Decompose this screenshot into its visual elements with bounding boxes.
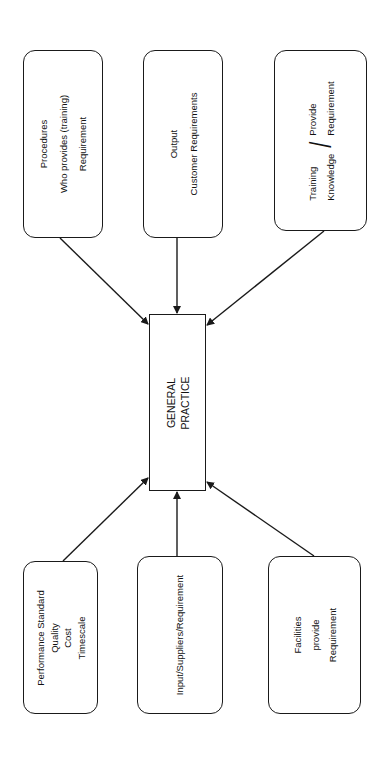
box-line: Facilities bbox=[292, 608, 302, 662]
arrow-training bbox=[207, 231, 324, 325]
facilities-box: Facilities provide Requirement bbox=[268, 556, 361, 714]
box-line: Requirement bbox=[325, 81, 335, 135]
general-practice-box: GENERAL PRACTICE bbox=[149, 314, 206, 491]
center-line: GENERAL bbox=[166, 376, 177, 429]
box-line: Provide bbox=[307, 81, 317, 135]
box-line: Knowledge bbox=[325, 153, 335, 200]
output-box: Output Customer Requirements bbox=[143, 50, 223, 238]
box-line: Training bbox=[307, 153, 317, 200]
input-text: Input/Suppliers/Requirement bbox=[175, 575, 185, 695]
procedures-box: Procedures Who provides (training) Requi… bbox=[23, 50, 103, 238]
output-text: Output Customer Requirements bbox=[169, 93, 198, 196]
box-line: Procedures bbox=[39, 95, 49, 193]
input-box: Input/Suppliers/Requirement bbox=[137, 556, 223, 714]
slash-separator: / bbox=[306, 141, 335, 147]
training-text: Training Knowledge / Provide Requirement bbox=[307, 81, 334, 201]
box-line: Timescale bbox=[76, 590, 86, 686]
procedures-text: Procedures Who provides (training) Requi… bbox=[39, 95, 88, 193]
training-left-group: Training Knowledge bbox=[307, 153, 334, 200]
center-line: PRACTICE bbox=[179, 376, 190, 429]
box-line: Output bbox=[169, 93, 179, 196]
performance-box: Performance Standard Quality Cost Timesc… bbox=[23, 561, 98, 714]
arrow-facilities bbox=[207, 482, 314, 556]
performance-text: Performance Standard Quality Cost Timesc… bbox=[36, 590, 86, 686]
training-right-group: Provide Requirement bbox=[307, 81, 334, 135]
general-practice-text: GENERAL PRACTICE bbox=[166, 376, 190, 429]
box-line: Requirement bbox=[78, 95, 88, 193]
training-box: Training Knowledge / Provide Requirement bbox=[274, 50, 367, 231]
arrow-performance bbox=[63, 478, 148, 561]
box-line: Customer Requirements bbox=[188, 93, 198, 196]
box-line: Input/Suppliers/Requirement bbox=[175, 575, 185, 695]
facilities-text: Facilities provide Requirement bbox=[292, 608, 337, 662]
box-line: Performance Standard bbox=[36, 590, 46, 686]
box-line: Quality bbox=[49, 590, 59, 686]
box-line: Requirement bbox=[327, 608, 337, 662]
arrow-procedures bbox=[60, 238, 148, 324]
box-line: provide bbox=[310, 608, 320, 662]
box-line: Who provides (training) bbox=[58, 95, 68, 193]
box-line: Cost bbox=[63, 590, 73, 686]
